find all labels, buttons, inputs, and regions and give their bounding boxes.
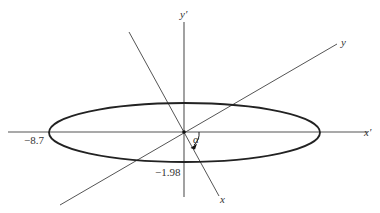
- angle-alpha-label: α: [193, 133, 199, 145]
- diagram-canvas: y′ x′ x y −8.7 −1.98 α: [0, 0, 380, 213]
- y-rotated-axis: [60, 44, 337, 205]
- origin-point: [182, 130, 186, 134]
- semi-major-label: −8.7: [24, 134, 44, 146]
- semi-minor-label: −1.98: [155, 166, 181, 178]
- x-rotated-label: x: [219, 193, 225, 205]
- rotated-axes-diagram: y′ x′ x y −8.7 −1.98 α: [0, 0, 380, 213]
- y-prime-label: y′: [179, 8, 188, 20]
- x-prime-label: x′: [363, 126, 372, 138]
- y-rotated-label: y: [340, 36, 346, 48]
